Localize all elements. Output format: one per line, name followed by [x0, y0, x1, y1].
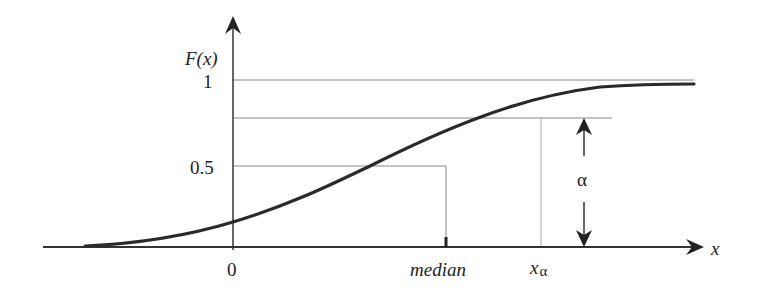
y-tick-half: 0.5: [190, 157, 214, 178]
x-alpha-label: xα: [529, 257, 547, 279]
median-label: median: [410, 259, 466, 280]
x-axis-label: x: [710, 238, 720, 259]
alpha-label: α: [577, 169, 587, 190]
x-alpha-base: x: [529, 257, 539, 278]
cdf-diagram: F(x) 1 0.5 0 median xα α x: [0, 0, 757, 292]
y-axis: [225, 16, 241, 250]
x-tick-zero: 0: [227, 259, 237, 280]
y-tick-one: 1: [203, 71, 213, 92]
cdf-curve: [85, 84, 694, 246]
x-alpha-subscript: α: [539, 263, 547, 279]
y-axis-label: F(x): [184, 48, 218, 70]
